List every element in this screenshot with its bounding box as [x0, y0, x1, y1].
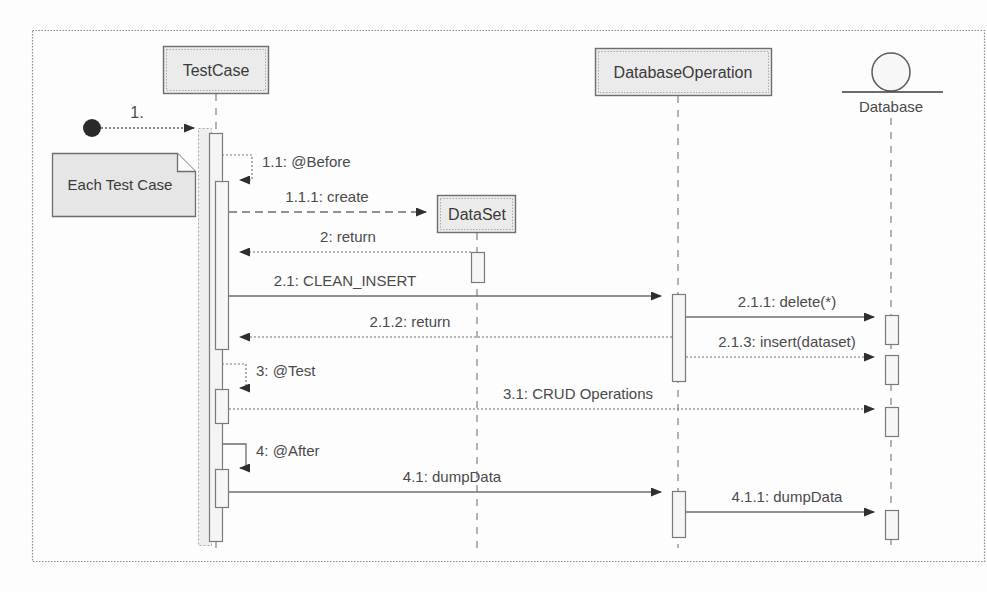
message-3-line	[222, 364, 246, 388]
activation-databaseoperation-cleaninsert	[673, 295, 686, 382]
message-3-1: 3.1: CRUD Operations	[229, 385, 874, 409]
message-2-1-2: 2.1.2: return	[240, 313, 672, 337]
message-3-1-label: 3.1: CRUD Operations	[503, 385, 653, 402]
message-1-1: 1.1: @Before	[222, 153, 351, 180]
message-4-1-1-label: 4.1.1: dumpData	[732, 488, 844, 505]
message-1-1-1-label: 1.1.1: create	[285, 188, 368, 205]
note-label: Each Test Case	[68, 176, 173, 193]
database-actor-icon	[872, 53, 910, 91]
message-2: 2: return	[240, 228, 471, 252]
start-dot-icon	[83, 119, 101, 137]
note-fold-icon	[178, 154, 196, 172]
message-4-1: 4.1: dumpData	[229, 468, 661, 492]
participant-database-label: Database	[859, 98, 923, 115]
message-1-1-1: 1.1.1: create	[229, 188, 426, 212]
activation-testcase-after	[216, 470, 229, 508]
message-2-1: 2.1: CLEAN_INSERT	[229, 272, 661, 296]
participant-databaseoperation-label: DatabaseOperation	[614, 64, 753, 81]
message-2-1-1: 2.1.1: delete(*)	[686, 293, 874, 317]
start-message-label: 1.	[130, 104, 143, 121]
note-each-test-case: Each Test Case	[53, 154, 196, 217]
activation-testcase-test	[216, 390, 229, 424]
activation-database-crud	[886, 408, 899, 437]
participant-testcase-label: TestCase	[183, 62, 250, 79]
participant-databaseoperation[interactable]: DatabaseOperation	[596, 49, 772, 96]
message-2-1-2-label: 2.1.2: return	[370, 313, 451, 330]
message-2-1-label: 2.1: CLEAN_INSERT	[274, 272, 416, 289]
participant-database[interactable]: Database	[842, 53, 943, 115]
message-3: 3: @Test	[222, 362, 316, 388]
sequence-diagram-canvas: TestCase DataSet DatabaseOperation Datab…	[0, 0, 987, 592]
participant-headers: TestCase DataSet DatabaseOperation Datab…	[164, 47, 944, 233]
activation-database-insert	[886, 356, 899, 385]
message-4: 4: @After	[222, 442, 320, 468]
activation-databaseoperation-dumpdata	[673, 492, 686, 538]
participant-testcase[interactable]: TestCase	[164, 47, 269, 94]
message-2-1-3: 2.1.3: insert(dataset)	[686, 333, 874, 357]
sequence-diagram-svg: TestCase DataSet DatabaseOperation Datab…	[0, 0, 987, 592]
activation-testcase-before	[216, 182, 229, 350]
start-message: 1.	[83, 104, 194, 137]
message-1-1-label: 1.1: @Before	[262, 153, 351, 170]
message-2-label: 2: return	[320, 228, 376, 245]
message-2-1-1-label: 2.1.1: delete(*)	[738, 293, 836, 310]
message-4-1-1: 4.1.1: dumpData	[686, 488, 874, 512]
message-4-line	[222, 444, 246, 468]
message-4-1-label: 4.1: dumpData	[403, 468, 502, 485]
message-4-label: 4: @After	[256, 442, 320, 459]
message-1-1-line	[222, 155, 252, 180]
activation-dataset	[472, 253, 485, 283]
participant-dataset[interactable]: DataSet	[438, 196, 516, 233]
activation-database-delete	[886, 316, 899, 345]
participant-dataset-label: DataSet	[448, 206, 506, 223]
message-3-label: 3: @Test	[256, 362, 316, 379]
activation-database-dumpdata	[886, 511, 899, 540]
message-2-1-3-label: 2.1.3: insert(dataset)	[718, 333, 856, 350]
